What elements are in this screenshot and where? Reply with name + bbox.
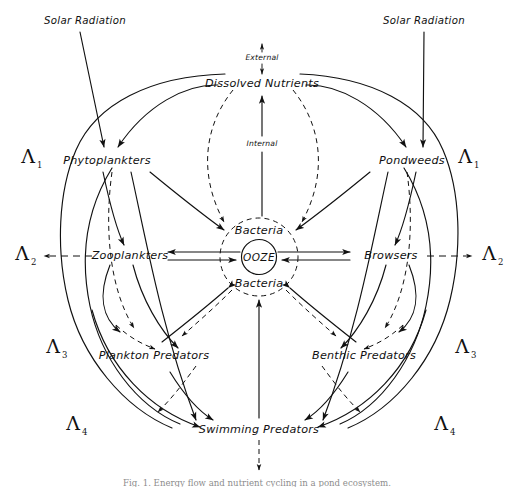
- solar-input-right: Solar Radiation: [383, 15, 465, 147]
- figure-caption: Fig. 1. Energy flow and nutrient cycling…: [0, 478, 514, 487]
- lambda-right-3: Λ 3: [454, 335, 476, 360]
- lambda-right-1: Λ 1: [457, 145, 479, 170]
- browsers-ooze-exchange: [278, 252, 350, 260]
- arrow-plankton-predators-to-bacteria: [162, 288, 228, 342]
- arc-left-to-swimming-outer: [92, 310, 200, 427]
- solar-arrow-left: [80, 32, 104, 147]
- nutrients-bacteria-dashed-loops: [208, 90, 319, 222]
- outer-arc-right-inner: [340, 168, 431, 424]
- lambda-right-4-subscript: 4: [450, 427, 455, 437]
- lambda-left-3-subscript: 3: [62, 350, 67, 360]
- dashed-nutrients-to-bacteria-right: [293, 90, 318, 222]
- lambda-left-4: Λ 4: [65, 412, 87, 437]
- arrow-zooplankters-to-plankton-predators: [133, 265, 178, 348]
- dashed-zooplankters-loss: [116, 325, 155, 349]
- solar-radiation-label-right: Solar Radiation: [383, 15, 465, 26]
- lambda-right-3-subscript: 3: [471, 350, 476, 360]
- lambda-right-column: Λ 1 Λ 2 Λ 3 Λ 4: [433, 145, 503, 437]
- pondweeds-label: Pondweeds: [379, 154, 445, 167]
- lambda-left-1-subscript: 1: [37, 160, 42, 170]
- external-flux: External: [245, 44, 279, 74]
- solar-input-left: Solar Radiation: [44, 15, 126, 147]
- bacteria-label-bottom: Bacteria: [235, 277, 284, 290]
- lambda-left-2-symbol: Λ: [14, 242, 29, 264]
- lambda-left-1: Λ 1: [20, 145, 42, 170]
- dashed-benthic-predators-loss: [322, 366, 360, 412]
- outer-arc-left-inner: [85, 168, 180, 424]
- lambda-right-1-subscript: 1: [474, 160, 479, 170]
- lambda-right-2-symbol: Λ: [481, 242, 496, 264]
- phytoplankters-label: Phytoplankters: [63, 154, 151, 167]
- browsers-label: Browsers: [364, 249, 417, 262]
- external-label: External: [245, 53, 279, 62]
- arrow-zooplankters-curve-down: [103, 265, 120, 332]
- dashed-bacteria-to-plankton-predators: [182, 290, 232, 336]
- zooplankters-label: Zooplankters: [91, 249, 169, 262]
- arrow-phytoplankters-to-plankton-predators: [131, 172, 196, 420]
- zooplankters-outflows: [103, 265, 178, 349]
- lambda-right-3-symbol: Λ: [454, 335, 469, 357]
- swimming-predators-label: Swimming Predators: [199, 423, 319, 436]
- arrow-phytoplankters-to-zooplankters: [103, 172, 124, 245]
- lambda-left-2-subscript: 2: [31, 257, 36, 267]
- lambda-right-2-subscript: 2: [498, 257, 503, 267]
- lambda-right-1-symbol: Λ: [457, 145, 472, 167]
- dashed-bacteria-to-benthic-predators: [286, 290, 336, 336]
- browsers-outflows: [341, 265, 416, 349]
- ooze-core: Bacteria OOZE Bacteria: [220, 218, 298, 296]
- lambda-left-2: Λ 2: [14, 242, 36, 267]
- ecology-flow-diagram: Solar Radiation Solar Radiation External…: [0, 0, 514, 487]
- arrow-nutrients-to-pondweeds: [306, 85, 406, 147]
- dissolved-nutrients-label: Dissolved Nutrients: [205, 77, 319, 90]
- figure-caption-strip: Fig. 1. Energy flow and nutrient cycling…: [0, 478, 514, 487]
- lambda-left-3: Λ 3: [45, 335, 67, 360]
- plankton-predators-label: Plankton Predators: [99, 349, 210, 362]
- pondweeds-outflows: [296, 172, 416, 420]
- lambda-left-1-symbol: Λ: [20, 145, 35, 167]
- dashed-nutrients-to-bacteria-left: [208, 90, 233, 222]
- lambda-right-2: Λ 2: [481, 242, 503, 267]
- lambda-left-4-symbol: Λ: [65, 412, 80, 434]
- solar-radiation-label-left: Solar Radiation: [44, 15, 126, 26]
- dashed-browsers-loss: [364, 325, 403, 349]
- solar-arrow-right: [423, 32, 424, 147]
- ooze-label: OOZE: [243, 251, 275, 263]
- lambda-left-4-subscript: 4: [82, 427, 87, 437]
- internal-label: Internal: [247, 139, 279, 148]
- arrow-benthic-predators-to-bacteria: [290, 288, 356, 342]
- lambda-left-column: Λ 1 Λ 2 Λ 3 Λ 4: [14, 145, 87, 437]
- arc-right-to-swimming-outer: [318, 310, 426, 427]
- internal-flux: Internal: [247, 96, 279, 216]
- diagram-canvas: Solar Radiation Solar Radiation External…: [0, 0, 514, 487]
- arrow-pondweeds-to-benthic-predators: [323, 172, 388, 420]
- arrow-plankton-predators-to-swimming: [170, 372, 213, 420]
- lambda-left-3-symbol: Λ: [45, 335, 60, 357]
- zooplankters-ooze-exchange: [168, 252, 240, 260]
- arrow-phytoplankters-to-bacteria: [150, 172, 224, 230]
- arrow-benthic-predators-to-swimming: [305, 372, 348, 420]
- lambda-right-4: Λ 4: [433, 412, 455, 437]
- benthic-predators-label: Benthic Predators: [312, 349, 416, 362]
- lambda-right-4-symbol: Λ: [433, 412, 448, 434]
- arrow-browsers-curve-down: [399, 265, 416, 332]
- bacteria-label-top: Bacteria: [235, 224, 284, 237]
- arrow-pondweeds-to-bacteria: [296, 172, 370, 230]
- phytoplankters-outflows: [103, 172, 224, 420]
